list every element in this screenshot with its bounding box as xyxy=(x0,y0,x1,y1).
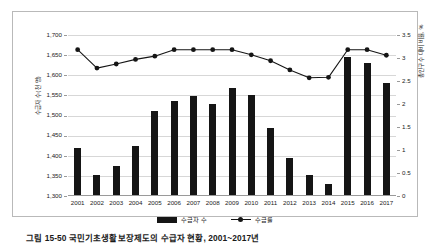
y-axis-right-tick-label: 3.5 xyxy=(402,32,411,38)
y-axis-left-tick-label: 1,450 xyxy=(47,132,62,138)
chart-legend: 수급자 수 수급률 xyxy=(13,215,417,224)
x-axis-tick-label: 2004 xyxy=(129,199,143,206)
y-axis-right-tick-label: 2.5 xyxy=(402,78,411,84)
x-axis-tick-label: 2016 xyxy=(360,199,374,206)
line-marker xyxy=(249,52,254,57)
line-marker xyxy=(230,47,235,52)
line-marker xyxy=(210,47,215,52)
y-axis-left-tick-label: 1,350 xyxy=(47,173,62,179)
y-axis-right-tick-label: 1.5 xyxy=(402,124,411,130)
y-axis-left-tick-mark xyxy=(64,116,67,117)
y-axis-right-tick-label: 0.5 xyxy=(402,170,411,176)
line-marker xyxy=(307,75,312,80)
legend-bar-swatch-icon xyxy=(157,217,177,223)
legend-item-label: 수급률 xyxy=(255,215,273,224)
y-axis-left-tick-mark xyxy=(64,95,67,96)
y-axis-right-tick-mark xyxy=(397,35,400,36)
x-axis-tick-label: 2011 xyxy=(264,199,277,206)
x-axis-line xyxy=(68,195,396,196)
y-axis-left-tick-mark xyxy=(64,176,67,177)
legend-item-line: 수급률 xyxy=(231,215,273,224)
y-axis-left-tick-label: 1,700 xyxy=(47,32,62,38)
line-marker xyxy=(365,47,370,52)
x-axis-tick-label: 2009 xyxy=(225,199,239,206)
legend-line-swatch-icon xyxy=(231,216,251,223)
line-marker xyxy=(133,57,138,62)
y-axis-right-tick-label: 3 xyxy=(402,55,405,61)
line-marker xyxy=(287,68,292,73)
line-marker xyxy=(95,66,100,71)
y-axis-left-tick-label: 1,500 xyxy=(47,112,62,118)
x-axis-tick-label: 2014 xyxy=(322,199,336,206)
line-marker xyxy=(191,47,196,52)
y-axis-right-tick-mark xyxy=(397,127,400,128)
y-axis-left-tick-mark xyxy=(64,55,67,56)
y-axis-right-title: 총인구수 대비 비율, % xyxy=(417,24,425,78)
x-axis-tick-label: 2015 xyxy=(341,199,355,206)
legend-item-label: 수급자 수 xyxy=(181,215,207,224)
x-axis-tick-label: 2001 xyxy=(71,199,85,206)
line-marker xyxy=(268,58,273,63)
x-axis-tick-label: 2005 xyxy=(148,199,162,206)
y-axis-left-tick-mark xyxy=(64,35,67,36)
line-marker xyxy=(326,75,331,80)
y-axis-right-tick-mark xyxy=(397,104,400,105)
line-marker xyxy=(345,47,350,52)
y-axis-right-tick-mark xyxy=(397,150,400,151)
y-axis-left-title: 수급자 수(천 명) xyxy=(34,76,42,115)
y-axis-left-tick-mark xyxy=(64,196,67,197)
x-axis-tick-labels: 2001200220032004200520062007200820092010… xyxy=(68,199,396,211)
y-axis-right-tick-mark xyxy=(397,58,400,59)
y-axis-left-tick-mark xyxy=(64,75,67,76)
figure-caption: 그림 15-50 국민기초생활보장제도의 수급자 현황, 2001~2017년 xyxy=(26,231,259,243)
y-axis-right-tick-mark xyxy=(397,81,400,82)
x-axis-tick-label: 2008 xyxy=(206,199,220,206)
line-marker xyxy=(75,47,80,52)
x-axis-tick-label: 2017 xyxy=(379,199,393,206)
x-axis-tick-label: 2003 xyxy=(109,199,123,206)
x-axis-tick-label: 2006 xyxy=(167,199,181,206)
y-axis-right-tick-label: 0 xyxy=(402,193,405,199)
chart-frame: 수급자 수(천 명) 총인구수 대비 비율, % 1,3001,3501,400… xyxy=(12,11,418,217)
line-marker xyxy=(172,47,177,52)
x-axis-tick-label: 2010 xyxy=(244,199,258,206)
line-series-수급률 xyxy=(68,35,396,196)
x-axis-tick-label: 2007 xyxy=(187,199,201,206)
x-axis-tick-label: 2002 xyxy=(90,199,104,206)
line-marker xyxy=(114,62,119,67)
y-axis-left-tick-mark xyxy=(64,156,67,157)
y-axis-left-tick-label: 1,650 xyxy=(47,52,62,58)
line-path xyxy=(78,50,387,78)
y-axis-right-tick-mark xyxy=(397,173,400,174)
x-axis-tick-label: 2012 xyxy=(283,199,297,206)
x-axis-tick-label: 2013 xyxy=(302,199,316,206)
line-marker xyxy=(152,54,157,59)
y-axis-right-tick-mark xyxy=(397,196,400,197)
y-axis-left-tick-label: 1,400 xyxy=(47,153,62,159)
legend-item-bar: 수급자 수 xyxy=(157,215,207,224)
line-marker xyxy=(384,53,389,58)
y-axis-left-tick-mark xyxy=(64,136,67,137)
plot-area: 1,3001,3501,4001,4501,5001,5501,6001,650… xyxy=(68,35,396,196)
y-axis-right-tick-label: 2 xyxy=(402,101,405,107)
y-axis-left-tick-label: 1,300 xyxy=(47,193,62,199)
y-axis-left-tick-label: 1,600 xyxy=(47,72,62,78)
y-axis-right-tick-label: 1 xyxy=(402,147,405,153)
y-axis-left-tick-label: 1,550 xyxy=(47,92,62,98)
